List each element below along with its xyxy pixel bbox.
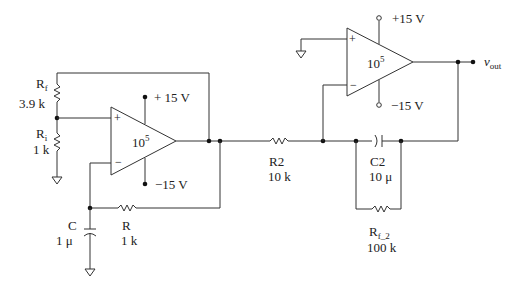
rf-value: 3.9 k [19,96,46,111]
minus-sign: − [115,155,122,169]
junction-node [456,60,461,65]
junction-node [207,139,212,144]
supply-terminal [377,16,382,21]
rf-resistor [54,73,60,118]
ri-value: 1 k [33,142,50,157]
c2-value: 10 μ [369,169,392,184]
rf2-label: Rf_2 [369,224,390,241]
r2-resistor [270,138,288,144]
ri-resistor [54,118,60,177]
c2-capacitor [375,135,382,147]
r-label: R [122,218,131,233]
ri-label: Ri [36,126,48,143]
c-capacitor [84,208,96,269]
opamp-2: + − 105 [347,28,413,96]
r-resistor [118,205,136,211]
supply-neg-label: −15 V [155,177,188,192]
ground-icon [85,269,95,276]
output-terminal [471,60,476,65]
ground-icon [52,177,62,184]
opamp-gain: 105 [132,133,150,150]
minus-sign: − [350,78,357,92]
opamp-1: + − 105 [111,107,176,175]
c-value: 1 μ [56,233,73,248]
plus-sign: + [349,32,356,46]
rf-label: Rf [36,76,48,93]
r2-value: 10 k [268,169,291,184]
rf2-resistor [372,206,390,212]
supply-terminal [377,103,382,108]
vout-label: vout [484,54,502,71]
circuit-diagram: + − 105 + 15 V −15 V Rf 3.9 k Ri 1 k C 1… [0,0,519,289]
r-value: 1 k [121,233,138,248]
c-label: C [68,218,77,233]
supply-neg-label: −15 V [391,98,424,113]
rf2-value: 100 k [367,240,397,255]
supply-terminal [143,95,148,100]
supply-pos-label: +15 V [392,11,425,26]
plus-sign: + [114,111,121,125]
r2-label: R2 [269,154,284,169]
opamp-gain: 105 [367,54,385,71]
ground-icon [296,51,306,58]
supply-pos-label: + 15 V [154,90,191,105]
supply-terminal [143,182,148,187]
c2-label: C2 [370,154,385,169]
